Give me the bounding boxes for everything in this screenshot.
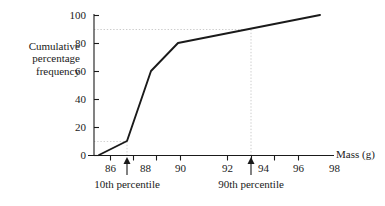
y-axis-title: Cumulative percentage frequency xyxy=(8,40,80,77)
x-tick-label-92: 92 xyxy=(215,162,240,174)
ninetieth-percentile-label: 90th percentile xyxy=(191,178,311,190)
tenth-percentile-label: 10th percentile xyxy=(67,178,187,190)
x-tick-label-96: 96 xyxy=(286,162,311,174)
y-tick-label-40: 40 xyxy=(58,93,86,105)
y-axis-title-line-2: percentage xyxy=(8,52,80,64)
x-tick-label-86: 86 xyxy=(98,162,123,174)
cumulative-frequency-curve xyxy=(99,15,320,155)
x-axis-title: Mass (g) xyxy=(336,148,375,160)
tenth-percentile-marker xyxy=(124,157,131,175)
y-axis-title-line-3: frequency xyxy=(8,65,80,77)
x-tick-label-88: 88 xyxy=(133,162,158,174)
x-tick-label-90: 90 xyxy=(168,162,193,174)
x-tick-label-94: 94 xyxy=(251,162,276,174)
x-tick-label-98: 98 xyxy=(322,162,347,174)
y-tick-label-100: 100 xyxy=(58,9,86,21)
y-tick-label-0: 0 xyxy=(58,149,86,161)
cumulative-frequency-chart: 100 80 60 40 20 0 Cumulative percentage … xyxy=(0,0,385,206)
y-tick-label-20: 20 xyxy=(58,121,86,133)
y-axis-ticks xyxy=(94,16,99,156)
x-axis-ticks xyxy=(111,156,299,161)
y-axis-title-line-1: Cumulative xyxy=(8,40,80,52)
